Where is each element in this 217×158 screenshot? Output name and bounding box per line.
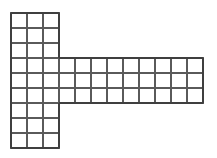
grid-cell bbox=[75, 58, 91, 73]
grid-cell bbox=[171, 73, 187, 88]
grid-cell bbox=[59, 88, 75, 103]
grid-cell bbox=[139, 88, 155, 103]
grid-cell bbox=[187, 58, 203, 73]
grid-cell bbox=[187, 88, 203, 103]
grid-cell bbox=[75, 73, 91, 88]
grid-cell bbox=[27, 13, 43, 28]
grid-cell bbox=[11, 13, 27, 28]
grid-cell bbox=[139, 73, 155, 88]
grid-cell bbox=[43, 88, 59, 103]
figure-canvas bbox=[0, 0, 217, 158]
grid-cell bbox=[75, 88, 91, 103]
grid-cell bbox=[27, 73, 43, 88]
grid-cell bbox=[27, 103, 43, 118]
grid-cell bbox=[187, 73, 203, 88]
grid-cell bbox=[59, 73, 75, 88]
grid-cell bbox=[11, 58, 27, 73]
grid-cell bbox=[11, 133, 27, 148]
grid-cell bbox=[155, 58, 171, 73]
grid-cell bbox=[107, 58, 123, 73]
grid-cell bbox=[43, 43, 59, 58]
grid-cell bbox=[43, 118, 59, 133]
grid-cell bbox=[139, 58, 155, 73]
grid-cell bbox=[91, 73, 107, 88]
grid-cell bbox=[155, 73, 171, 88]
grid-cell bbox=[11, 43, 27, 58]
grid-cell bbox=[107, 73, 123, 88]
grid-figure-svg bbox=[0, 0, 217, 158]
grid-cell bbox=[91, 58, 107, 73]
grid-cell bbox=[123, 88, 139, 103]
grid-cell bbox=[43, 13, 59, 28]
grid-cell bbox=[123, 73, 139, 88]
grid-cell bbox=[171, 58, 187, 73]
grid-cell bbox=[155, 88, 171, 103]
grid-cell bbox=[43, 133, 59, 148]
grid-cell bbox=[43, 73, 59, 88]
grid-cell bbox=[123, 58, 139, 73]
grid-cell bbox=[11, 73, 27, 88]
grid-cell bbox=[91, 88, 107, 103]
grid-cell bbox=[27, 133, 43, 148]
grid-cell bbox=[27, 88, 43, 103]
grid-cell bbox=[27, 43, 43, 58]
grid-cell bbox=[59, 58, 75, 73]
grid-cell bbox=[107, 88, 123, 103]
grid-cell bbox=[171, 88, 187, 103]
grid-cell bbox=[11, 103, 27, 118]
grid-cells-layer bbox=[11, 13, 203, 148]
grid-cell bbox=[11, 118, 27, 133]
grid-cell bbox=[27, 118, 43, 133]
grid-cell bbox=[43, 58, 59, 73]
grid-cell bbox=[43, 103, 59, 118]
grid-cell bbox=[27, 58, 43, 73]
grid-cell bbox=[11, 88, 27, 103]
grid-cell bbox=[27, 28, 43, 43]
grid-cell bbox=[11, 28, 27, 43]
grid-cell bbox=[43, 28, 59, 43]
